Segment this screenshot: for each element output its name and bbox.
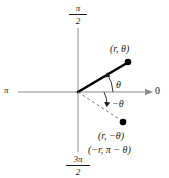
axis-label-pi-left: π bbox=[4, 86, 9, 95]
arc-negative-theta-arrowhead bbox=[104, 102, 110, 107]
diagram-canvas bbox=[0, 0, 169, 178]
angle-label-negative-theta: −θ bbox=[112, 99, 124, 109]
axis-label-three-pi-over-two: 3π 2 bbox=[66, 155, 90, 177]
polar-coordinate-diagram: π 0 π 2 3π 2 (r, θ) (r, −θ) (−r, π − θ) … bbox=[0, 0, 169, 178]
point-label-upper: (r, θ) bbox=[110, 44, 129, 54]
point-marker-lower bbox=[120, 119, 127, 126]
point-marker-upper bbox=[125, 59, 132, 66]
axis-label-pi-over-two-denominator: 2 bbox=[69, 16, 87, 26]
fraction-bar-bottom bbox=[66, 165, 90, 166]
point-label-lower-alternate: (−r, π − θ) bbox=[88, 145, 131, 155]
axis-label-zero-right: 0 bbox=[155, 86, 160, 96]
angle-label-theta: θ bbox=[116, 80, 121, 90]
axis-label-three-pi-over-two-denominator: 2 bbox=[66, 167, 90, 177]
fraction-bar-top bbox=[69, 14, 87, 15]
axis-label-three-pi-over-two-numerator: 3π bbox=[66, 155, 90, 165]
axis-label-pi-over-two-numerator: π bbox=[69, 4, 87, 14]
axis-label-pi-over-two: π 2 bbox=[69, 4, 87, 26]
point-label-lower-primary: (r, −θ) bbox=[98, 131, 124, 141]
horizontal-axis-arrowhead bbox=[145, 89, 153, 95]
